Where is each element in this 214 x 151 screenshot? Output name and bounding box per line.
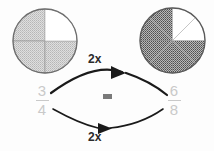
right-pie-svg xyxy=(139,7,206,74)
diagram-canvas: 2x 2x 3 4 6 8 xyxy=(0,0,214,151)
left-pie-chart xyxy=(12,8,78,74)
right-fraction: 6 8 xyxy=(163,83,185,118)
top-multiplier-label: 2x xyxy=(88,52,101,66)
equals-sign xyxy=(103,94,112,99)
right-fraction-denominator: 8 xyxy=(163,102,185,118)
left-fraction-numerator: 3 xyxy=(31,83,53,99)
left-fraction: 3 4 xyxy=(31,83,53,118)
bottom-multiplier-label: 2x xyxy=(88,130,101,144)
right-pie-chart xyxy=(139,7,206,74)
bottom-arrow-tail-right xyxy=(110,109,163,128)
bottom-arrow-tail-left xyxy=(53,109,98,128)
right-fraction-numerator: 6 xyxy=(163,83,185,99)
top-arrow-tail-right xyxy=(126,73,167,95)
left-fraction-denominator: 4 xyxy=(31,102,53,118)
left-pie-svg xyxy=(12,8,78,74)
top-arrow-head-icon xyxy=(111,66,126,79)
